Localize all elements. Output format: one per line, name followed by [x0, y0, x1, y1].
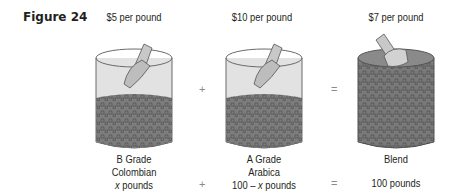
caption-arabica: A Grade Arabica 100 – x pounds: [222, 153, 307, 192]
equals-operator-bottom: =: [331, 177, 337, 189]
jar-arabica-illustration: [222, 30, 306, 154]
equals-operator-top: =: [331, 83, 337, 95]
caption-blend-amount: 100 pounds: [354, 177, 439, 190]
caption-arabica-amount: 100 – x pounds: [222, 179, 307, 192]
caption-blend: Blend 100 pounds: [354, 153, 439, 190]
price-colombian: $5 per pound: [92, 11, 177, 23]
figure-label: Figure 24: [23, 10, 87, 24]
caption-arabica-grade: A Grade: [222, 153, 307, 166]
jar-colombian-illustration: [92, 30, 176, 154]
caption-colombian: B Grade Colombian x pounds: [92, 153, 177, 192]
caption-colombian-grade: B Grade: [92, 153, 177, 166]
price-blend: $7 per pound: [354, 11, 439, 23]
caption-colombian-name: Colombian: [92, 166, 177, 179]
caption-arabica-name: Arabica: [222, 166, 307, 179]
caption-blend-name: Blend: [354, 153, 439, 166]
caption-colombian-amount: x pounds: [92, 179, 177, 192]
plus-operator-bottom: +: [199, 178, 205, 190]
plus-operator-top: +: [199, 83, 205, 95]
price-arabica: $10 per pound: [220, 11, 305, 23]
jar-blend-illustration: [354, 30, 438, 154]
